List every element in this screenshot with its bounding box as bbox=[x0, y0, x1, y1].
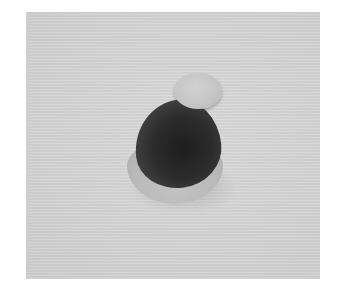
hat-pom-pom bbox=[174, 73, 222, 109]
photo bbox=[26, 12, 320, 279]
